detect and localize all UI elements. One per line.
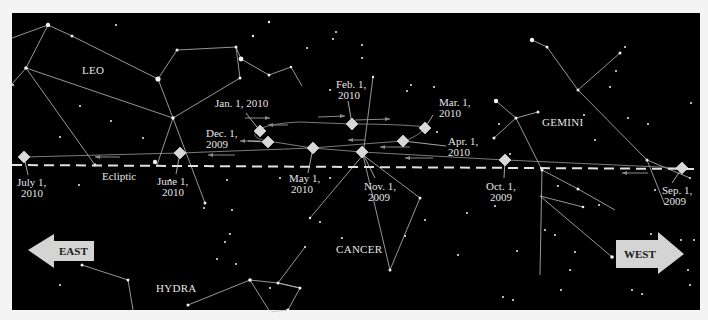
star xyxy=(155,76,160,81)
star xyxy=(598,204,600,206)
star xyxy=(59,136,61,138)
star xyxy=(546,46,549,49)
east-label: EAST xyxy=(59,245,88,257)
constellation-line xyxy=(494,118,516,138)
star xyxy=(502,296,504,298)
constellation-line xyxy=(48,25,72,36)
star xyxy=(615,70,617,72)
star xyxy=(216,258,218,260)
motion-arrowhead xyxy=(340,114,345,118)
star xyxy=(171,116,175,120)
west-label: WEST xyxy=(624,248,656,260)
star xyxy=(693,239,695,241)
label-jul-2010-l2: 2010 xyxy=(21,187,44,199)
star xyxy=(624,46,626,48)
star xyxy=(335,31,337,33)
star xyxy=(687,269,689,271)
star xyxy=(647,123,649,125)
constellation-line xyxy=(269,67,291,75)
constellation-line xyxy=(291,67,302,86)
label-feb-2010-l2: 2010 xyxy=(338,89,361,101)
star xyxy=(410,84,412,86)
star xyxy=(577,89,580,92)
star xyxy=(287,309,290,312)
star xyxy=(176,49,179,52)
constellation-line xyxy=(270,310,288,312)
star xyxy=(361,44,363,46)
constellation-line xyxy=(157,118,173,165)
constellation-line xyxy=(158,50,177,79)
star xyxy=(269,287,271,289)
motion-arrow xyxy=(355,119,390,120)
star xyxy=(115,24,117,26)
star xyxy=(203,207,205,209)
motion-arrowhead xyxy=(208,153,213,157)
star xyxy=(466,212,468,214)
star xyxy=(646,159,649,162)
star xyxy=(248,278,252,282)
ecliptic-line xyxy=(12,165,700,169)
label-may-2010-l2: 2010 xyxy=(291,183,314,195)
constellation-line xyxy=(188,280,250,305)
star xyxy=(231,209,233,211)
star xyxy=(204,202,207,205)
star xyxy=(689,284,691,286)
label-sep-2009-l2: 2009 xyxy=(664,195,687,207)
constellation-gemini: GEMINI xyxy=(542,116,584,128)
star xyxy=(235,263,237,265)
star xyxy=(299,287,302,290)
star xyxy=(680,239,682,241)
star xyxy=(560,289,562,291)
star xyxy=(516,250,518,252)
star xyxy=(79,105,81,107)
constellation-line xyxy=(250,280,278,283)
star xyxy=(582,206,585,209)
constellation-line xyxy=(12,68,26,84)
motion-arrowhead xyxy=(348,138,353,142)
label-jan-2010: Jan. 1, 2010 xyxy=(215,97,269,109)
star xyxy=(153,160,157,164)
star xyxy=(235,46,238,49)
star xyxy=(252,35,254,37)
constellation-line xyxy=(516,118,542,170)
constellation-cancer: CANCER xyxy=(336,243,383,255)
constellation-line xyxy=(547,47,578,90)
star xyxy=(279,177,281,179)
constellation-line xyxy=(278,247,305,283)
star xyxy=(515,117,518,120)
star xyxy=(569,269,571,271)
star xyxy=(631,289,633,291)
label-apr-2010-l2: 2010 xyxy=(448,146,471,158)
star xyxy=(512,299,514,301)
star xyxy=(544,229,546,231)
star xyxy=(574,251,576,253)
constellation-line xyxy=(516,112,538,118)
star xyxy=(436,131,438,133)
label-mar-2010-l2: 2010 xyxy=(439,107,462,119)
star xyxy=(59,284,61,286)
constellation-line xyxy=(578,90,647,160)
constellation-line xyxy=(578,53,620,90)
star xyxy=(372,76,374,78)
west-arrow: WEST xyxy=(616,232,684,274)
star xyxy=(304,246,306,248)
star xyxy=(78,184,80,186)
star xyxy=(577,188,580,191)
constellation-line xyxy=(288,288,300,310)
star xyxy=(81,264,84,267)
star xyxy=(389,269,392,272)
star xyxy=(239,57,244,62)
constellation-line xyxy=(390,198,420,270)
motion-arrowhead xyxy=(240,139,245,143)
constellation-line xyxy=(542,170,578,189)
star xyxy=(187,304,190,307)
star xyxy=(329,177,331,179)
star xyxy=(530,38,534,42)
star xyxy=(319,221,321,223)
star xyxy=(229,233,231,235)
star xyxy=(277,282,280,285)
star xyxy=(557,185,559,187)
star xyxy=(361,57,363,59)
star xyxy=(341,237,343,239)
leader-line xyxy=(246,113,260,131)
